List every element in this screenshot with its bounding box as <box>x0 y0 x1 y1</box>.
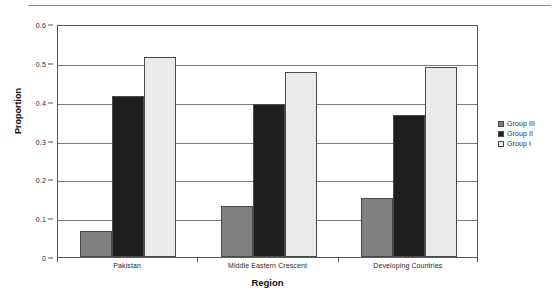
y-tick-mark <box>48 102 53 103</box>
x-axis-title: Region <box>57 277 478 288</box>
legend-item[interactable]: Group II <box>498 129 556 138</box>
plot-area <box>57 25 478 258</box>
legend-label: Group II <box>507 130 533 137</box>
bar <box>285 72 317 257</box>
y-tick-mark <box>48 141 53 142</box>
x-tick-label: Middle Eastern Crescent <box>228 262 307 269</box>
legend-swatch-icon <box>498 131 504 137</box>
bar <box>144 57 176 257</box>
y-tick-label: 0.2 <box>36 177 46 184</box>
y-tick-label: 0.5 <box>36 60 46 67</box>
y-tick-mark <box>48 219 53 220</box>
x-tick-label: Developing Countries <box>373 262 442 269</box>
bar <box>253 104 285 257</box>
y-axis-ticks: 00.10.20.30.40.50.6 <box>0 25 53 258</box>
y-tick-label: 0.3 <box>36 138 46 145</box>
y-tick-label: 0 <box>42 255 46 262</box>
x-axis-ticklabels: PakistanMiddle Eastern CrescentDevelopin… <box>57 262 478 276</box>
legend-swatch-icon <box>498 141 504 147</box>
y-tick-label: 0.6 <box>36 22 46 29</box>
bar-chart-figure: Proportion 00.10.20.30.40.50.6 PakistanM… <box>0 0 558 295</box>
legend: Group IIIGroup IIGroup I <box>498 119 556 149</box>
bar <box>361 198 393 257</box>
legend-item[interactable]: Group I <box>498 139 556 148</box>
y-tick-mark <box>48 25 53 26</box>
y-tick-label: 0.1 <box>36 216 46 223</box>
bar <box>112 96 144 257</box>
legend-item[interactable]: Group III <box>498 119 556 128</box>
legend-label: Group III <box>507 120 535 127</box>
bar <box>393 115 425 257</box>
x-tick-label: Pakistan <box>113 262 141 269</box>
y-tick-mark <box>48 258 53 259</box>
y-tick-label: 0.4 <box>36 99 46 106</box>
bar <box>221 206 253 257</box>
header-divider <box>28 5 551 6</box>
legend-label: Group I <box>507 140 531 147</box>
bars-layer <box>58 26 477 257</box>
legend-swatch-icon <box>498 121 504 127</box>
bar <box>425 67 457 257</box>
bar <box>80 231 112 257</box>
y-tick-mark <box>48 180 53 181</box>
y-tick-mark <box>48 63 53 64</box>
